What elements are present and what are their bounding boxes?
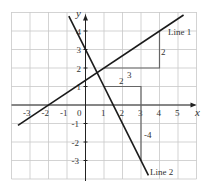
y-tick-label: 2 (77, 64, 82, 74)
origin-label: 0 (77, 108, 82, 118)
y-axis-label: y (75, 7, 81, 19)
coordinate-plane: -3-2-112345-3-2-11234 x y 0 Line 1 Line … (0, 0, 204, 188)
y-axis-arrow-icon (83, 15, 88, 21)
y-tick-label: -3 (72, 156, 80, 166)
line-2-run-label: 2 (119, 76, 124, 86)
line-2-label: Line 2 (150, 167, 173, 177)
x-tick-label: 5 (175, 108, 180, 118)
y-tick-label: -2 (72, 138, 80, 148)
line-1-label: Line 1 (168, 27, 191, 37)
x-tick-label: 2 (120, 108, 125, 118)
x-tick-label: -1 (60, 108, 68, 118)
line-1-run-label: 3 (127, 70, 132, 80)
labels: x y 0 Line 1 Line 2 3 2 2 -4 (75, 7, 200, 177)
x-tick-label: 4 (157, 108, 162, 118)
line-1-rise-label: 2 (161, 47, 166, 57)
plotted-lines (18, 15, 184, 175)
x-tick-label: 1 (101, 108, 106, 118)
grid (12, 12, 197, 179)
x-tick-label: -3 (23, 108, 31, 118)
y-tick-label: -1 (72, 119, 80, 129)
line-2 (69, 16, 149, 175)
x-axis-label: x (194, 106, 200, 118)
line-2-rise-label: -4 (144, 130, 152, 140)
y-tick-label: 3 (77, 45, 82, 55)
